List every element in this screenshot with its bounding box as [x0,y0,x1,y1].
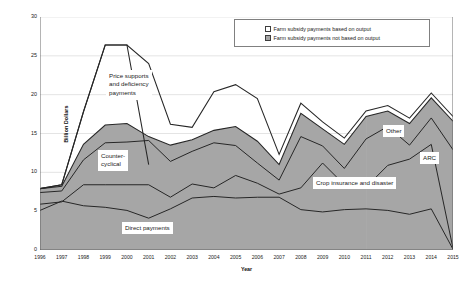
y-tick-15: 15 [15,131,37,136]
annotation-price-supports: Price supports and deficiency payments [106,70,152,100]
x-tick-2015: 2015 [441,255,465,260]
x-tick-2013: 2013 [398,255,422,260]
x-tick-1996: 1996 [28,255,52,260]
y-tick-10: 10 [15,170,37,175]
x-tick-1998: 1998 [71,255,95,260]
legend-label-not-based-on-output: Farm subsidy payments not based on outpu… [274,35,380,41]
x-tick-1999: 1999 [93,255,117,260]
x-tick-2006: 2006 [245,255,269,260]
x-tick-2001: 2001 [137,255,161,260]
x-tick-2008: 2008 [289,255,313,260]
y-tick-5: 5 [15,208,37,213]
legend-swatch-open-icon [265,26,271,32]
x-tick-2014: 2014 [419,255,443,260]
legend-label-based-on-output: Farm subsidy payments based on output [274,26,371,32]
legend-item-based-on-output: Farm subsidy payments based on output [235,24,429,33]
y-tick-25: 25 [15,53,37,58]
annotation-direct-payments: Direct payments [122,222,173,234]
legend-item-not-based-on-output: Farm subsidy payments not based on outpu… [235,33,429,42]
legend-swatch-filled-icon [265,35,271,41]
x-tick-1997: 1997 [50,255,74,260]
x-tick-2011: 2011 [354,255,378,260]
annotation-arc: ARC [420,152,439,164]
x-tick-2010: 2010 [332,255,356,260]
x-axis-label: Year [40,266,453,272]
y-tick-20: 20 [15,92,37,97]
x-tick-2009: 2009 [311,255,335,260]
annotation-counter-cyclical: Counter- cyclical [98,150,128,171]
x-tick-2002: 2002 [158,255,182,260]
chart-legend: Farm subsidy payments based on output Fa… [234,19,430,47]
x-tick-2005: 2005 [224,255,248,260]
x-tick-2007: 2007 [267,255,291,260]
annotation-crop-insurance: Crop insurance and disaster [313,177,396,189]
x-tick-2012: 2012 [376,255,400,260]
x-tick-2000: 2000 [115,255,139,260]
y-tick-30: 30 [15,14,37,19]
x-tick-2003: 2003 [180,255,204,260]
x-tick-2004: 2004 [202,255,226,260]
chart-container: 30 25 20 15 10 5 0 Billion Dollars 1996 … [0,0,475,285]
y-axis-label: Billion Dollars [63,94,69,154]
annotation-other: Other [383,125,404,137]
y-tick-0: 0 [15,247,37,252]
